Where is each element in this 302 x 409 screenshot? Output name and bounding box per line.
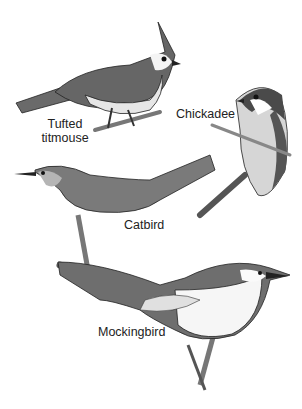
label-tufted-titmouse: Tufted titmouse xyxy=(40,117,90,145)
titmouse-drawing xyxy=(16,22,181,130)
label-catbird: Catbird xyxy=(124,218,164,232)
label-mockingbird: Mockingbird xyxy=(98,325,165,339)
bird-illustration xyxy=(0,0,302,409)
catbird-drawing xyxy=(14,155,215,290)
label-chickadee: Chickadee xyxy=(176,107,235,121)
mockingbird-drawing xyxy=(58,262,290,390)
label-line-1: Tufted xyxy=(40,117,90,131)
label-line-2: titmouse xyxy=(40,131,90,145)
